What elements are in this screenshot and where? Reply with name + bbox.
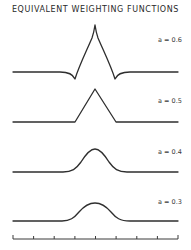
label-a-0-4: a = 0.4	[158, 148, 182, 156]
series-a-0-6: a = 0.6	[13, 25, 182, 79]
label-a-0-6: a = 0.6	[158, 36, 182, 44]
plot-area: a = 0.6 a = 0.5 a = 0.4 a = 0.3	[0, 0, 191, 250]
series-a-0-4: a = 0.4	[13, 148, 182, 172]
label-a-0-5: a = 0.5	[158, 97, 182, 105]
series-a-0-3: a = 0.3	[13, 198, 182, 221]
x-axis	[13, 235, 178, 239]
series-a-0-5: a = 0.5	[13, 89, 182, 122]
label-a-0-3: a = 0.3	[158, 198, 182, 206]
